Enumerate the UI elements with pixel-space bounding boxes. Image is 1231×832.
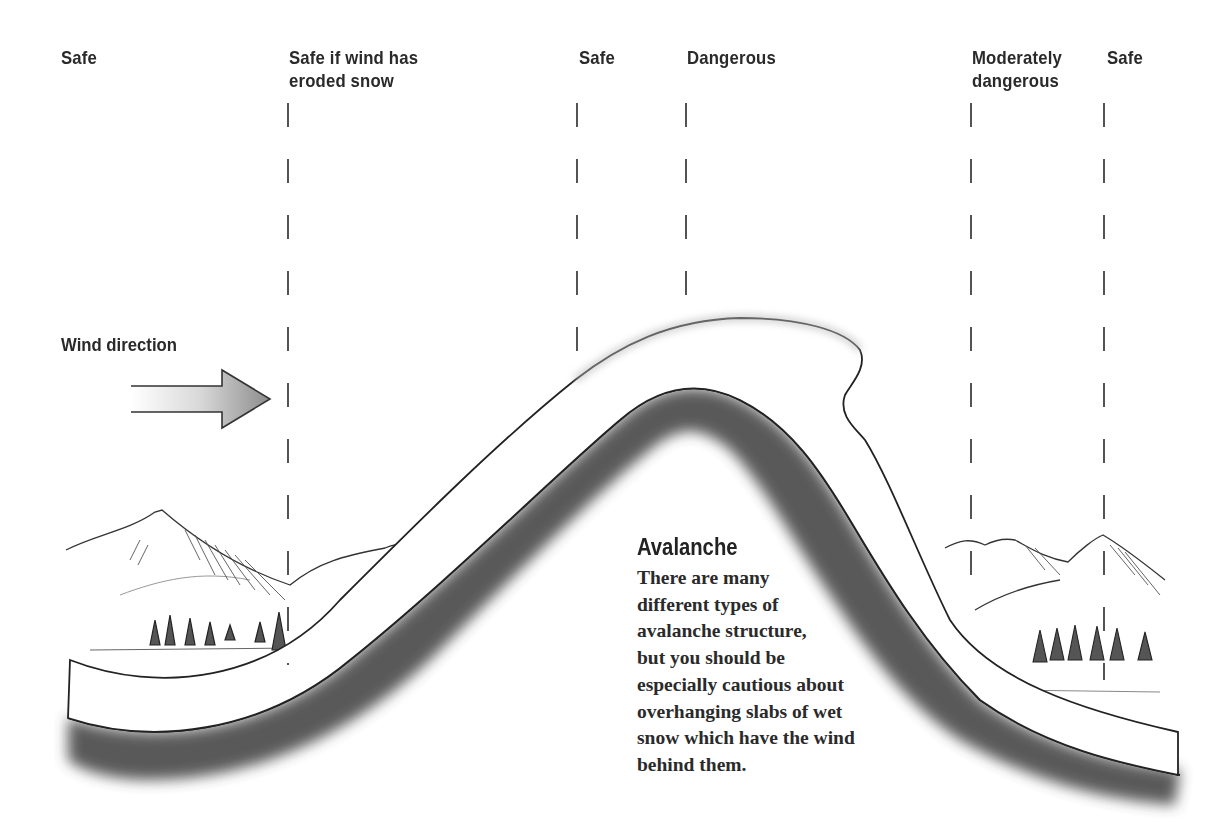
- description-line: snow which have the wind: [637, 725, 957, 752]
- zone-label-safe-crest: Safe: [579, 46, 615, 69]
- description-line: different types of: [637, 592, 957, 619]
- arrow-right-icon: [131, 370, 270, 428]
- description-line: especially cautious about: [637, 672, 957, 699]
- zone-label-safe-right: Safe: [1107, 46, 1143, 69]
- zone-label-safe-left: Safe: [61, 46, 97, 69]
- zone-label-line: Moderately: [972, 46, 1062, 69]
- wind-direction-label: Wind direction: [61, 334, 177, 356]
- zone-label-line: eroded snow: [289, 69, 418, 92]
- avalanche-title: Avalanche: [637, 534, 737, 561]
- description-line: but you should be: [637, 645, 957, 672]
- description-line: overhanging slabs of wet: [637, 699, 957, 726]
- zone-label-line: Safe: [1107, 47, 1143, 68]
- zone-label-dangerous: Dangerous: [687, 46, 776, 69]
- description-line: There are many: [637, 565, 957, 592]
- rock-layer: [68, 388, 1180, 805]
- zone-label-line: Safe: [61, 47, 97, 68]
- zone-label-line: Safe if wind has: [289, 46, 418, 69]
- avalanche-diagram: [0, 0, 1231, 832]
- avalanche-description: There are many different types of avalan…: [637, 565, 957, 779]
- zone-label-line: dangerous: [972, 69, 1062, 92]
- description-line: behind them.: [637, 752, 957, 779]
- zone-label-moderately-dangerous: Moderately dangerous: [972, 46, 1062, 92]
- zone-label-safe-if-wind-eroded: Safe if wind has eroded snow: [289, 46, 418, 92]
- zone-label-line: Safe: [579, 47, 615, 68]
- description-line: avalanche structure,: [637, 618, 957, 645]
- zone-label-line: Dangerous: [687, 47, 776, 68]
